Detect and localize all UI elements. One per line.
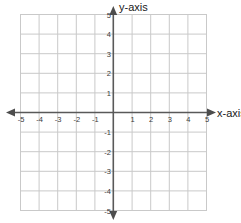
x-tick-label-3: 3 — [168, 115, 172, 124]
x-axis-label: x-axis — [217, 107, 241, 119]
coordinate-plane-figure: -5 -4 -3 -2 -1 1 2 3 4 5 5 4 3 2 1 -1 -2… — [0, 0, 241, 223]
y-tick-label-1: 1 — [107, 89, 111, 98]
y-tick-label-2: 2 — [107, 69, 111, 78]
x-tick-label--4: -4 — [36, 115, 43, 124]
x-tick-label--2: -2 — [73, 115, 80, 124]
x-tick-label-2: 2 — [149, 115, 153, 124]
x-tick-label--1: -1 — [92, 115, 99, 124]
figure-background — [0, 0, 241, 223]
y-tick-label--1: -1 — [104, 128, 111, 137]
y-tick-label--2: -2 — [104, 148, 111, 157]
coordinate-grid-svg: -5 -4 -3 -2 -1 1 2 3 4 5 5 4 3 2 1 -1 -2… — [0, 0, 241, 223]
x-tick-label-1: 1 — [131, 115, 135, 124]
x-tick-label--5: -5 — [18, 115, 25, 124]
x-tick-label-4: 4 — [186, 115, 190, 124]
x-tick-label--3: -3 — [55, 115, 62, 124]
y-tick-label-5: 5 — [107, 11, 111, 20]
x-tick-label-5: 5 — [205, 115, 209, 124]
y-tick-label-4: 4 — [107, 30, 111, 39]
y-tick-label--5: -5 — [104, 207, 111, 216]
y-tick-label--3: -3 — [104, 167, 111, 176]
y-axis-label: y-axis — [119, 1, 148, 13]
y-tick-label--4: -4 — [104, 187, 111, 196]
y-tick-label-3: 3 — [107, 50, 111, 59]
